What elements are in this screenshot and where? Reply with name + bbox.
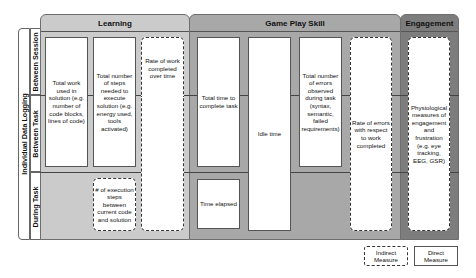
individual-data-logging-group: Individual Data Logging (18, 28, 30, 240)
measure-total-time: Total time to complete task (197, 37, 240, 167)
measure-idle-time: Idle time (248, 37, 291, 231)
legend-direct-measure: Direct Measure (414, 246, 458, 266)
measure-total-errors: Total number of errors observed during t… (299, 37, 342, 167)
measure-execution-steps: Total number of steps needed to execute … (93, 37, 136, 167)
measure-steps-to-solution: # of execution steps between current cod… (93, 178, 136, 231)
game-play-skill-header: Game Play Skill (190, 15, 400, 32)
learning-header: Learning (41, 15, 189, 32)
legend-indirect-measure: Indirect Measure (364, 246, 408, 266)
measure-error-rate: Rate of errors with respect to work comp… (350, 37, 392, 231)
measure-rate-of-work: Rate of work completed over time (141, 37, 184, 99)
engagement-header: Engagement (401, 15, 458, 32)
measure-total-work: Total work used in solution (e.g. number… (45, 37, 88, 167)
measure-time-elapsed: Time elapsed (197, 179, 240, 229)
measure-rate-of-work-lower (141, 96, 184, 231)
group-label: Individual Data Logging (20, 88, 30, 180)
measure-physiological: Physiological measures of engagement and… (408, 37, 450, 231)
